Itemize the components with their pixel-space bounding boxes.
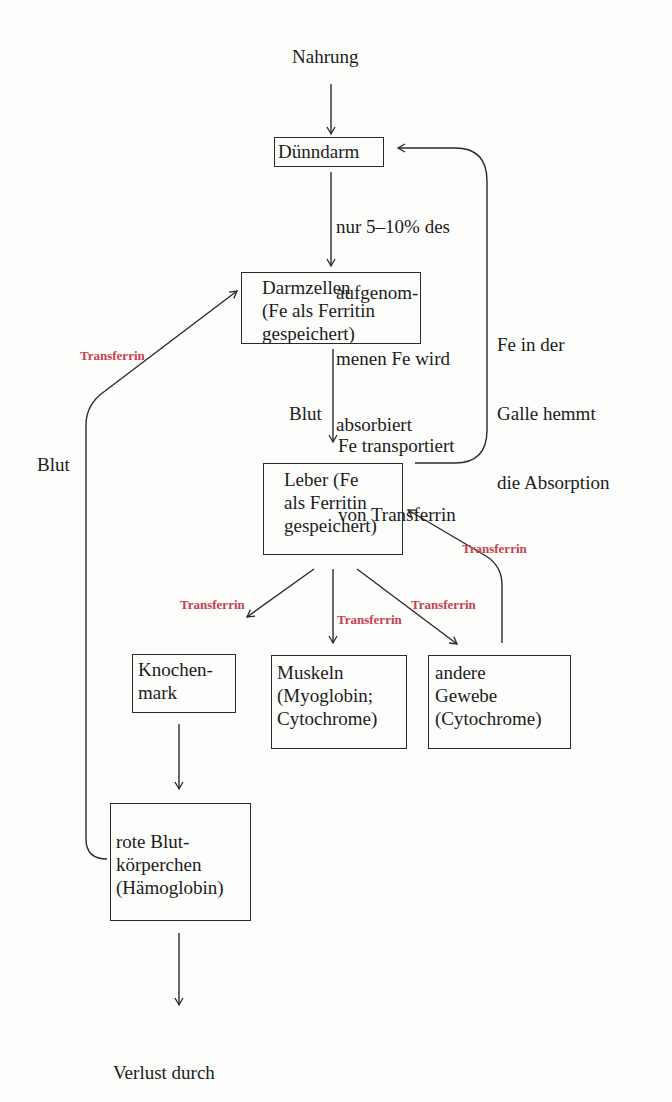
node-leber-line: Leber (Fe bbox=[284, 468, 402, 491]
arrow-rbk-darmzellen bbox=[86, 291, 237, 859]
node-andere-gewebe-line: (Cytochrome) bbox=[435, 707, 570, 730]
node-leber: Leber (Fe als Ferritin gespeichert) bbox=[263, 463, 403, 555]
node-darmzellen-line: gespeichert) bbox=[262, 322, 420, 345]
label-absorption-line: menen Fe wird bbox=[336, 348, 450, 370]
label-galle-line: die Absorption bbox=[497, 471, 609, 494]
node-andere-gewebe-line: Gewebe bbox=[435, 684, 570, 707]
node-verlust-line: Verlust durch bbox=[113, 1061, 228, 1084]
node-nahrung: Nahrung bbox=[292, 45, 358, 68]
node-andere-gewebe: andere Gewebe (Cytochrome) bbox=[428, 655, 571, 749]
node-rbk-line: rote Blut- bbox=[116, 830, 250, 853]
node-muskeln-line: Muskeln bbox=[277, 661, 406, 684]
node-leber-line: gespeichert) bbox=[284, 514, 402, 537]
node-duenndarm: Dünndarm bbox=[274, 137, 384, 167]
node-darmzellen-line: (Fe als Ferritin bbox=[262, 299, 420, 322]
label-transferrin-knochenmark: Transferrin bbox=[180, 597, 245, 612]
label-galle-line: Galle hemmt bbox=[497, 402, 609, 425]
node-knochenmark-line: Knochen- bbox=[138, 658, 235, 681]
label-transferrin-leber-return: Transferrin bbox=[462, 541, 527, 556]
node-rbk-line: (Hämoglobin) bbox=[116, 876, 250, 899]
node-knochenmark-line: mark bbox=[138, 681, 235, 704]
node-rbk-line: körperchen bbox=[116, 853, 250, 876]
node-darmzellen: Darmzellen (Fe als Ferritin gespeichert) bbox=[241, 272, 421, 344]
label-transferrin-muskeln: Transferrin bbox=[337, 612, 402, 627]
node-duenndarm-label: Dünndarm bbox=[278, 140, 383, 163]
label-absorption-line: nur 5–10% des bbox=[336, 216, 450, 238]
arrow-leber-knochenmark bbox=[247, 569, 314, 617]
label-transferrin-gewebe: Transferrin bbox=[411, 597, 476, 612]
label-transferrin-darm: Transferrin bbox=[80, 348, 145, 363]
node-muskeln: Muskeln (Myoglobin; Cytochrome) bbox=[271, 655, 407, 749]
node-verlust: Verlust durch Menstruations- blut bbox=[113, 1015, 228, 1102]
label-blut-mid: Blut bbox=[289, 402, 322, 425]
label-blut-left: Blut bbox=[37, 453, 70, 476]
node-muskeln-line: Cytochrome) bbox=[277, 707, 406, 730]
label-galle: Fe in der Galle hemmt die Absorption bbox=[497, 287, 609, 517]
node-darmzellen-line: Darmzellen bbox=[262, 276, 420, 299]
node-muskeln-line: (Myoglobin; bbox=[277, 684, 406, 707]
label-galle-line: Fe in der bbox=[497, 333, 609, 356]
node-rote-blutkoerperchen: rote Blut- körperchen (Hämoglobin) bbox=[110, 803, 251, 921]
node-knochenmark: Knochen- mark bbox=[132, 654, 236, 713]
label-blut-transport-line: Fe transportiert bbox=[338, 434, 456, 457]
node-leber-line: als Ferritin bbox=[284, 491, 402, 514]
node-andere-gewebe-line: andere bbox=[435, 661, 570, 684]
